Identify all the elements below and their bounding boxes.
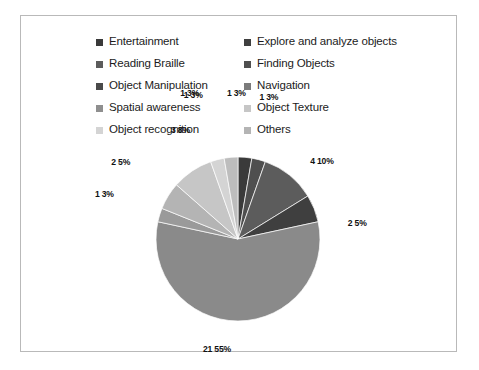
pie-slice-label: 1 3% [95, 189, 114, 199]
pie-slice-label: 2 5% [111, 157, 130, 167]
pie-slice-label: 2 5% [348, 218, 367, 228]
legend-label: Entertainment [109, 36, 179, 48]
legend-item-object-recognition[interactable]: Object recognition [96, 124, 244, 136]
legend-swatch-icon [244, 83, 251, 90]
legend-swatch-icon [244, 127, 251, 134]
legend-item-entertainment[interactable]: Entertainment [96, 36, 244, 48]
legend-item-finding-objects[interactable]: Finding Objects [244, 58, 416, 70]
pie-slice[interactable] [211, 158, 238, 239]
pie-slice-label: 4 10% [310, 156, 334, 166]
pie-slice[interactable] [156, 222, 320, 321]
legend-label: Spatial awareness [109, 102, 200, 114]
pie-slice[interactable] [238, 162, 308, 239]
legend-swatch-icon [96, 127, 103, 134]
legend-label: Reading Braille [109, 58, 185, 70]
legend-swatch-icon [244, 39, 251, 46]
pie-slice[interactable] [176, 162, 238, 239]
pie-slice[interactable] [224, 157, 238, 239]
pie-slices [156, 157, 320, 321]
legend-label: Finding Objects [257, 58, 335, 70]
legend-swatch-icon [96, 61, 103, 68]
pie-slice[interactable] [238, 158, 265, 239]
legend-label: Others [257, 124, 291, 136]
legend-item-spatial-awareness[interactable]: Spatial awareness [96, 102, 244, 114]
legend-label: Object Texture [257, 102, 329, 114]
legend-label: Object recognition [109, 124, 199, 136]
legend-item-others[interactable]: Others [244, 124, 416, 136]
pie-slice[interactable] [238, 157, 252, 239]
legend-swatch-icon [244, 105, 251, 112]
legend-label: Navigation [257, 80, 310, 92]
chart-frame: Entertainment Explore and analyze object… [20, 15, 457, 352]
legend-label: Object Manipulation [109, 80, 208, 92]
pie-slice[interactable] [162, 185, 238, 239]
legend-item-object-texture[interactable]: Object Texture [244, 102, 416, 114]
legend-item-reading-braille[interactable]: Reading Braille [96, 58, 244, 70]
pie-slice-label: 21 55% [203, 344, 232, 353]
legend-swatch-icon [96, 39, 103, 46]
legend-item-navigation[interactable]: Navigation [244, 80, 416, 92]
legend-item-object-manipulation[interactable]: Object Manipulation [96, 80, 244, 92]
legend-swatch-icon [96, 83, 103, 90]
pie-slice[interactable] [238, 196, 318, 239]
legend-item-explore-and-analyze-objects[interactable]: Explore and analyze objects [244, 36, 416, 48]
legend-swatch-icon [96, 105, 103, 112]
pie-slice[interactable] [158, 208, 238, 239]
chart-legend: Entertainment Explore and analyze object… [96, 31, 416, 141]
legend-label: Explore and analyze objects [257, 36, 397, 48]
legend-swatch-icon [244, 61, 251, 68]
